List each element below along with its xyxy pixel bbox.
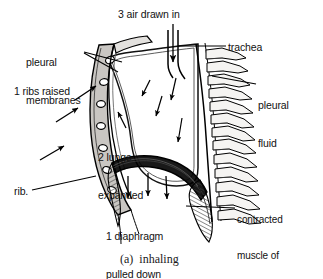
label-air-drawn-in: 3 air drawn in bbox=[118, 8, 180, 21]
label-pleural-fluid-line1: pleural bbox=[258, 99, 289, 112]
inhaling-diagram-figure: 3 air drawn in pleural membranes 1 ribs … bbox=[0, 0, 323, 279]
label-contracted-muscle-line1: contracted bbox=[237, 214, 298, 226]
arrow-rib-3 bbox=[40, 146, 64, 160]
label-pleural-membranes: pleural membranes bbox=[26, 31, 81, 131]
label-pleural-fluid: pleural fluid bbox=[258, 74, 289, 174]
label-rib: rib. bbox=[14, 185, 28, 198]
label-pleural-membranes-line1: pleural bbox=[26, 56, 81, 69]
label-diaphragm-pulled-down-line2: pulled down bbox=[106, 268, 163, 279]
label-lungs-expanded-line1: 2 lungs bbox=[98, 151, 143, 164]
label-trachea: trachea bbox=[228, 41, 262, 54]
label-diaphragm-pulled-down-line1: 1 diaphragm bbox=[106, 230, 163, 243]
label-lungs-expanded-line2: expanded bbox=[98, 189, 143, 202]
figure-caption: (a) inhaling bbox=[120, 252, 179, 267]
label-diaphragm-pulled-down: 1 diaphragm pulled down bbox=[106, 205, 163, 279]
leader-rib bbox=[32, 176, 96, 190]
label-ribs-raised: 1 ribs raised bbox=[14, 85, 70, 98]
label-contracted-muscle-line2: muscle of bbox=[237, 250, 298, 262]
label-pleural-fluid-line2: fluid bbox=[258, 137, 289, 150]
label-contracted-muscle-of-diaphragm: contracted muscle of diaphragm (exaggera… bbox=[237, 190, 298, 279]
